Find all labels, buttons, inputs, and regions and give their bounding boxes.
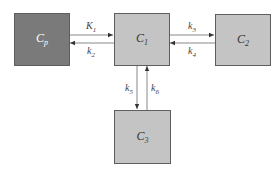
rate-label-k6: k6 [151, 83, 159, 96]
K1-base: K [86, 20, 93, 31]
rate-label-K1: K1 [86, 21, 96, 34]
cp-sub: p [44, 39, 48, 48]
rate-label-k2: k2 [87, 46, 95, 59]
rate-label-k4: k4 [188, 46, 196, 59]
c2-base: C [237, 32, 245, 46]
compartment-c1-label: C1 [136, 31, 148, 47]
c2-sub: 2 [245, 39, 249, 48]
c1-base: C [136, 31, 144, 45]
compartment-c2-label: C2 [237, 32, 249, 48]
k2-sub: 2 [91, 51, 95, 59]
compartment-c1: C1 [114, 13, 170, 66]
compartment-c3-label: C3 [136, 129, 148, 145]
c3-sub: 3 [145, 136, 149, 145]
compartment-c3: C3 [114, 110, 171, 164]
K1-sub: 1 [93, 26, 97, 34]
cp-base: C [36, 31, 44, 45]
compartment-cp: Cp [14, 13, 70, 66]
k3-sub: 3 [192, 26, 196, 34]
rate-label-k3: k3 [188, 21, 196, 34]
compartment-cp-label: Cp [36, 31, 48, 47]
rate-label-k5: k5 [125, 83, 133, 96]
compartment-c2: C2 [215, 14, 271, 66]
k5-sub: 5 [129, 88, 133, 96]
c1-sub: 1 [144, 39, 148, 48]
k6-sub: 6 [155, 88, 159, 96]
c3-base: C [136, 129, 144, 143]
k4-sub: 4 [192, 51, 196, 59]
